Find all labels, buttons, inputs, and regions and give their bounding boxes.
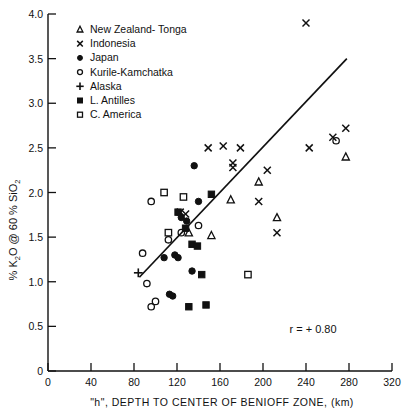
x-tick-label: 200 (254, 376, 272, 388)
marker-square-open (78, 112, 83, 117)
marker-cross-x (77, 41, 83, 47)
marker-circle-open (165, 237, 171, 243)
x-axis-ticks: 04080120160200240280320 (45, 363, 401, 388)
correlation-annotation: r = + 0.80 (289, 323, 336, 335)
legend-item-label: Japan (90, 51, 119, 63)
y-tick-label: 4.0 (28, 8, 43, 20)
x-tick-label: 120 (168, 376, 186, 388)
marker-cross-x (273, 229, 280, 236)
marker-circle-open (78, 70, 83, 75)
legend-item-label: C. America (90, 108, 142, 120)
legend-item-kurile-kamchatka: Kurile-Kamchatka (78, 66, 174, 78)
marker-square-filled (182, 225, 188, 231)
x-tick-label: 40 (85, 376, 97, 388)
marker-cross-x (220, 143, 227, 150)
marker-circle-filled (170, 293, 176, 299)
marker-plus (76, 83, 83, 90)
marker-square-filled (186, 304, 192, 310)
marker-cross-x (303, 19, 310, 26)
marker-circle-filled (175, 254, 181, 260)
marker-circle-open (152, 298, 158, 304)
x-tick-label: 160 (211, 376, 229, 388)
marker-square-open (245, 271, 251, 277)
marker-circle-filled (191, 163, 197, 169)
x-axis-title: "h", DEPTH TO CENTER OF BENIOFF ZONE, (k… (90, 396, 354, 408)
legend-item-l-antilles: L. Antilles (78, 94, 135, 106)
marker-triangle-open (273, 214, 280, 221)
marker-square-filled (208, 191, 214, 197)
marker-cross-x (342, 125, 349, 132)
marker-cross-x (237, 144, 244, 151)
marker-circle-filled (183, 218, 189, 224)
marker-circle-open (195, 222, 201, 228)
data-points (134, 19, 349, 310)
marker-triangle-open (227, 196, 234, 203)
series-kurile-kamchatka (139, 138, 339, 310)
legend-item-c-america: C. America (78, 108, 142, 120)
marker-square-filled (78, 98, 83, 103)
marker-square-filled (194, 243, 200, 249)
y-tick-label: 0 (37, 365, 43, 377)
x-tick-label: 0 (45, 376, 51, 388)
legend-item-label: Alaska (90, 80, 122, 92)
series-l-antilles (175, 191, 215, 310)
marker-square-filled (203, 302, 209, 308)
marker-square-filled (199, 271, 205, 277)
legend-item-alaska: Alaska (76, 80, 121, 92)
y-tick-label: 2.0 (28, 187, 43, 199)
x-tick-label: 240 (297, 376, 315, 388)
marker-circle-filled (78, 55, 83, 60)
y-tick-label: 0.5 (28, 320, 43, 332)
legend-item-label: L. Antilles (90, 94, 135, 106)
marker-circle-filled (189, 268, 195, 274)
legend-item-label: Kurile-Kamchatka (90, 66, 173, 78)
marker-triangle-open (255, 178, 262, 185)
marker-cross-x (205, 144, 212, 151)
y-tick-label: 3.0 (28, 97, 43, 109)
marker-cross-x (255, 198, 262, 205)
marker-circle-filled (161, 254, 167, 260)
marker-triangle-open (77, 26, 83, 32)
marker-circle-filled (195, 198, 201, 204)
legend-item-label: New Zealand- Tonga (90, 23, 187, 35)
y-axis-title: % K2O @ 60 % SiO2 (7, 180, 22, 281)
marker-square-open (165, 229, 171, 235)
x-tick-label: 280 (340, 376, 358, 388)
y-tick-label: 1.0 (28, 276, 43, 288)
series-indonesia (177, 19, 350, 236)
marker-square-filled (175, 209, 181, 215)
series-c-america (161, 189, 251, 278)
marker-circle-open (139, 250, 145, 256)
legend-item-new-zealand-tonga: New Zealand- Tonga (77, 23, 187, 35)
marker-cross-x (264, 167, 271, 174)
marker-square-open (161, 189, 167, 195)
marker-triangle-open (208, 231, 215, 238)
y-tick-label: 2.5 (28, 142, 43, 154)
plot-canvas: 00.51.01.52.02.53.03.54.0 04080120160200… (0, 0, 411, 415)
regression-trendline (139, 59, 346, 278)
marker-circle-open (148, 198, 154, 204)
marker-circle-open (144, 280, 150, 286)
x-tick-label: 320 (383, 376, 401, 388)
y-axis-ticks: 00.51.01.52.02.53.03.54.0 (28, 8, 56, 377)
marker-cross-x (229, 164, 236, 171)
marker-triangle-open (342, 153, 349, 160)
y-tick-label: 3.5 (28, 53, 43, 65)
legend-item-indonesia: Indonesia (77, 37, 135, 49)
legend-item-japan: Japan (78, 51, 119, 63)
series-japan (161, 163, 202, 300)
legend-item-label: Indonesia (90, 37, 136, 49)
marker-square-open (180, 194, 186, 200)
legend: New Zealand- TongaIndonesiaJapanKurile-K… (76, 23, 187, 120)
y-tick-label: 1.5 (28, 231, 43, 243)
marker-cross-x (306, 144, 313, 151)
scatter-plot-figure: 00.51.01.52.02.53.03.54.0 04080120160200… (0, 0, 411, 415)
x-tick-label: 80 (128, 376, 140, 388)
